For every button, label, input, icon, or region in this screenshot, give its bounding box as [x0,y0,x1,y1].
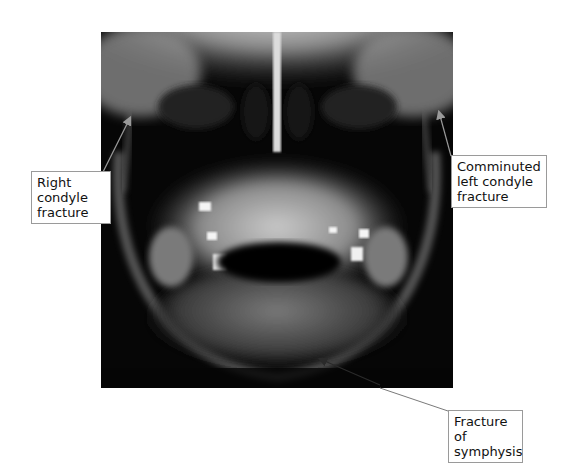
xray-image [101,32,453,388]
xray-illustration [101,32,453,388]
label-left-condyle-fracture: Comminuted left condyle fracture [451,155,547,208]
leader-symphysis [380,388,448,411]
label-right-condyle-fracture: Right condyle fracture [31,171,111,224]
label-symphysis-fracture: Fracture of symphysis [448,410,523,463]
